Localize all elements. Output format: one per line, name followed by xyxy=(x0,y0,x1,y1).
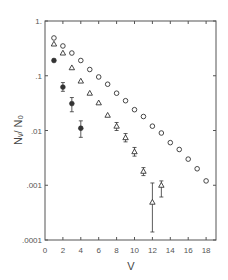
open-circle-marker xyxy=(52,36,57,41)
y-tick-label: .01 xyxy=(31,127,43,136)
open-circle-marker xyxy=(168,140,173,145)
open-circle-marker xyxy=(186,157,191,162)
open-triangle-marker xyxy=(96,100,101,105)
x-tick-label: 8 xyxy=(114,246,119,255)
open-triangle-marker xyxy=(150,199,155,204)
open-triangle-marker xyxy=(123,135,128,140)
y-axis-ticks: 1..1.01.001.0001 xyxy=(22,17,216,245)
open-triangle-marker xyxy=(78,78,83,83)
chart: 024681012141618 1..1.01.001.0001 V Nᵥ/ N… xyxy=(0,0,228,280)
open-circle-marker xyxy=(141,114,146,119)
x-tick-label: 14 xyxy=(166,246,175,255)
x-tick-label: 18 xyxy=(202,246,211,255)
filled-circle-marker xyxy=(78,126,83,131)
open-circle-marker xyxy=(114,91,119,96)
x-tick-label: 4 xyxy=(79,246,84,255)
x-tick-label: 10 xyxy=(130,246,139,255)
data-series xyxy=(51,36,208,232)
series-solid-circles xyxy=(52,58,84,137)
y-tick-label: 1. xyxy=(35,17,42,26)
open-circle-marker xyxy=(150,124,155,129)
open-triangle-marker xyxy=(105,112,110,117)
open-circle-marker xyxy=(87,67,92,72)
open-circle-marker xyxy=(132,107,137,112)
open-circle-marker xyxy=(123,98,128,103)
open-triangle-marker xyxy=(141,168,146,173)
filled-circle-marker xyxy=(52,58,57,63)
open-triangle-marker xyxy=(60,50,65,55)
x-tick-label: 6 xyxy=(96,246,101,255)
open-triangle-marker xyxy=(132,149,137,154)
x-tick-label: 0 xyxy=(43,246,48,255)
x-axis-label: V xyxy=(127,260,135,272)
y-tick-label: .0001 xyxy=(22,236,43,245)
series-open-circles xyxy=(52,36,209,184)
x-tick-label: 2 xyxy=(61,246,66,255)
open-circle-marker xyxy=(177,147,182,152)
x-tick-label: 12 xyxy=(148,246,157,255)
open-circle-marker xyxy=(61,44,66,49)
open-circle-marker xyxy=(96,75,101,80)
open-triangle-marker xyxy=(69,65,74,70)
y-axis-label: Nᵥ/ N₀ xyxy=(12,115,24,145)
y-tick-label: .001 xyxy=(26,181,42,190)
x-tick-label: 16 xyxy=(184,246,193,255)
open-circle-marker xyxy=(70,51,75,56)
open-triangle-marker xyxy=(51,41,56,46)
filled-circle-marker xyxy=(61,85,66,90)
open-triangle-marker xyxy=(114,123,119,128)
open-circle-marker xyxy=(204,179,209,184)
open-triangle-marker xyxy=(159,182,164,187)
y-tick-label: .1 xyxy=(35,72,42,81)
open-circle-marker xyxy=(79,58,84,63)
open-circle-marker xyxy=(105,82,110,87)
open-circle-marker xyxy=(159,131,164,136)
series-open-triangles xyxy=(51,41,164,232)
open-triangle-marker xyxy=(87,90,92,95)
filled-circle-marker xyxy=(69,101,74,106)
open-circle-marker xyxy=(195,166,200,171)
